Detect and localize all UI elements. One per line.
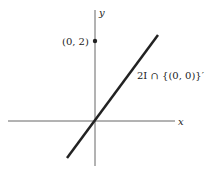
point-0-2 [93, 39, 97, 43]
diagram: y x (0, 2) 2I ∩ {(0, 0)}′ [0, 0, 209, 177]
x-axis-label: x [178, 116, 184, 127]
line-2i [67, 35, 158, 158]
y-axis-label: y [98, 7, 105, 18]
point-label: (0, 2) [62, 36, 89, 47]
line-label: 2I ∩ {(0, 0)}′ [137, 70, 205, 81]
